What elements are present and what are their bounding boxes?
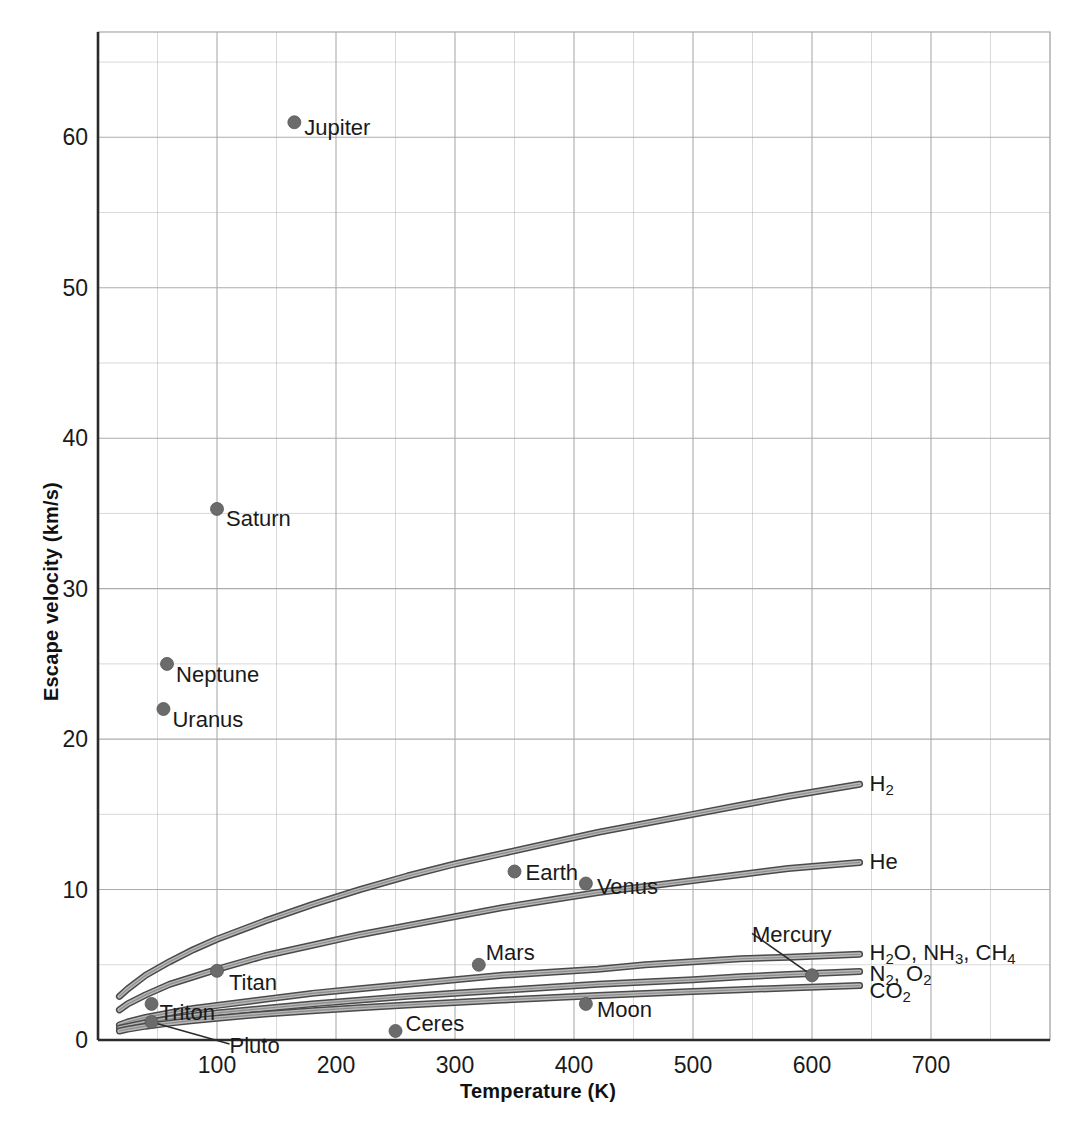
x-tick-label: 200 <box>317 1052 355 1079</box>
x-tick-label: 700 <box>912 1052 950 1079</box>
x-tick-label: 300 <box>436 1052 474 1079</box>
point-label-neptune: Neptune <box>176 662 259 688</box>
data-point-earth <box>508 865 521 878</box>
data-point-titan <box>211 964 224 977</box>
y-tick-label: 30 <box>32 575 88 602</box>
data-point-ceres <box>389 1024 402 1037</box>
data-point-venus <box>579 877 592 890</box>
y-tick-label: 60 <box>32 124 88 151</box>
y-tick-label: 20 <box>32 726 88 753</box>
data-point-mars <box>472 958 485 971</box>
y-tick-label: 50 <box>32 274 88 301</box>
x-tick-label: 600 <box>793 1052 831 1079</box>
y-tick-label: 0 <box>32 1027 88 1054</box>
y-tick-label: 40 <box>32 425 88 452</box>
data-point-neptune <box>161 657 174 670</box>
data-point-mercury <box>806 969 819 982</box>
data-points <box>145 116 818 1038</box>
point-label-pluto: Pluto <box>230 1033 280 1059</box>
data-point-uranus <box>157 703 170 716</box>
x-tick-label: 400 <box>555 1052 593 1079</box>
data-point-pluto <box>145 1015 158 1028</box>
point-label-mercury: Mercury <box>752 922 831 948</box>
curve-label-h2: H2 <box>870 771 894 798</box>
x-axis-label: Temperature (K) <box>0 1080 1076 1103</box>
curve-label-he: He <box>870 849 898 875</box>
point-label-earth: Earth <box>526 860 579 886</box>
point-label-saturn: Saturn <box>226 506 291 532</box>
data-point-moon <box>579 997 592 1010</box>
y-tick-label: 10 <box>32 876 88 903</box>
point-label-ceres: Ceres <box>406 1011 465 1037</box>
point-label-titan: Titan <box>229 970 277 996</box>
point-label-uranus: Uranus <box>172 707 243 733</box>
x-tick-label: 500 <box>674 1052 712 1079</box>
point-label-jupiter: Jupiter <box>304 115 370 141</box>
point-label-moon: Moon <box>597 997 652 1023</box>
data-point-jupiter <box>288 116 301 129</box>
data-point-saturn <box>211 502 224 515</box>
point-label-venus: Venus <box>597 874 658 900</box>
escape-velocity-chart: Escape velocity (km/s) Temperature (K) 0… <box>0 0 1076 1130</box>
curve-label-co2: CO2 <box>870 978 911 1005</box>
gridlines <box>98 32 1050 1040</box>
point-label-mars: Mars <box>486 940 535 966</box>
point-label-triton: Triton <box>160 1000 215 1026</box>
data-point-triton <box>145 997 158 1010</box>
